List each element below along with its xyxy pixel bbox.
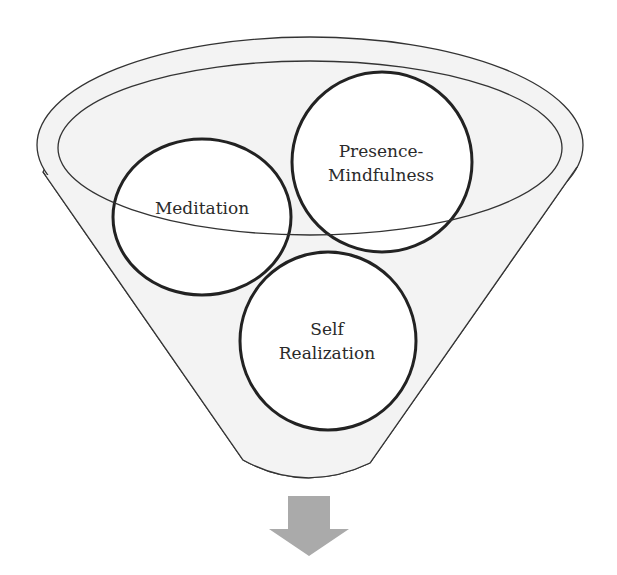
label-mindfulness: Mindfulness xyxy=(328,165,434,185)
label-self: Self xyxy=(310,319,345,339)
down-arrow-icon xyxy=(269,496,349,556)
label-meditation: Meditation xyxy=(155,198,249,218)
label-presence: Presence- xyxy=(339,141,424,161)
circle-self-realization xyxy=(240,252,416,430)
circle-presence-mindfulness xyxy=(292,72,472,252)
label-realization: Realization xyxy=(279,343,375,363)
funnel-diagram: Meditation Presence- Mindfulness Self Re… xyxy=(0,0,617,575)
